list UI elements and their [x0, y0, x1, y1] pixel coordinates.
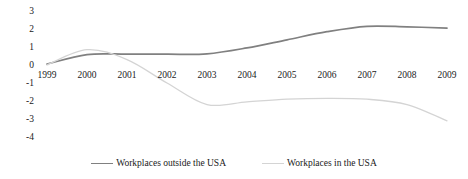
y-tick-label: 2 — [18, 24, 34, 34]
x-tick-label: 1999 — [30, 70, 64, 80]
series-line-2 — [47, 50, 447, 121]
legend-label: Workplaces outside the USA — [116, 158, 226, 169]
x-tick-label: 2003 — [190, 70, 224, 80]
x-tick-label: 2000 — [70, 70, 104, 80]
chart-legend: Workplaces outside the USAWorkplaces in … — [0, 152, 468, 174]
x-tick-label: 2002 — [150, 70, 184, 80]
series-line-1 — [47, 26, 447, 64]
x-tick-label: 2004 — [230, 70, 264, 80]
legend-label: Workplaces in the USA — [287, 158, 377, 169]
y-tick-label: -3 — [18, 114, 34, 124]
y-tick-label: 1 — [18, 42, 34, 52]
x-tick-label: 2005 — [270, 70, 304, 80]
x-tick-label: 2006 — [310, 70, 344, 80]
legend-line-swatch — [262, 163, 284, 164]
y-tick-label: -4 — [18, 132, 34, 142]
y-tick-label: 3 — [18, 6, 34, 16]
x-tick-label: 2009 — [430, 70, 464, 80]
line-chart-figure: 3210-1-2-3-4 199920002001200220032004200… — [0, 0, 468, 179]
x-tick-label: 2001 — [110, 70, 144, 80]
legend-line-swatch — [91, 163, 113, 164]
legend-entry-1[interactable]: Workplaces outside the USA — [91, 158, 226, 169]
plot-area: 3210-1-2-3-4 199920002001200220032004200… — [0, 0, 468, 145]
x-tick-label: 2007 — [350, 70, 384, 80]
x-tick-label: 2008 — [390, 70, 424, 80]
legend-entry-2[interactable]: Workplaces in the USA — [262, 158, 377, 169]
y-tick-label: -2 — [18, 96, 34, 106]
y-tick-label: 0 — [18, 60, 34, 70]
